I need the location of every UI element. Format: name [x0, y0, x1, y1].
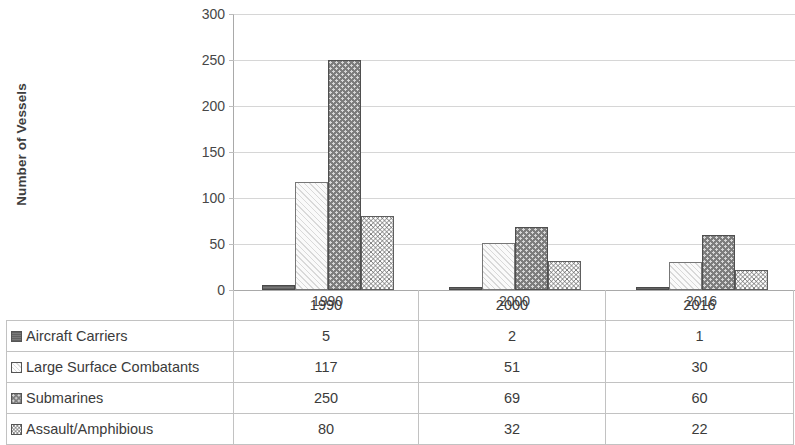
value-cell: 22: [606, 414, 794, 445]
table-row: Submarines2506960: [7, 383, 794, 414]
table-header-1990: 1990: [234, 290, 419, 321]
y-axis-tick-label: 200: [202, 98, 225, 114]
gridline: [234, 152, 795, 153]
table-header-2000: 2000: [419, 290, 606, 321]
y-axis-tick-label: 50: [209, 236, 225, 252]
value-cell: 5: [234, 321, 419, 352]
series-label-cell: Submarines: [7, 383, 234, 414]
series-label-text: Assault/Amphibious: [26, 421, 153, 437]
table-header-2016: 2016: [606, 290, 794, 321]
value-cell: 250: [234, 383, 419, 414]
series-label-text: Large Surface Combatants: [26, 359, 199, 375]
bar-large-surface-combatants-2016: [669, 262, 702, 290]
bar-large-surface-combatants-2000: [482, 243, 515, 290]
bar-large-surface-combatants-1990: [295, 182, 328, 290]
series-label-cell: Large Surface Combatants: [7, 352, 234, 383]
wave-swatch-icon: [11, 424, 22, 435]
y-axis-tick: [229, 14, 234, 15]
series-label-text: Aircraft Carriers: [26, 328, 128, 344]
gridline: [234, 60, 795, 61]
y-axis-tick-label: 300: [202, 6, 225, 22]
y-axis-tick: [229, 152, 234, 153]
gridline: [234, 14, 795, 15]
y-axis-title: Number of Vessels: [14, 55, 29, 235]
value-cell: 69: [419, 383, 606, 414]
table-row: Assault/Amphibious803222: [7, 414, 794, 445]
bar-submarines-2000: [515, 227, 548, 290]
bar-assault-amphibious-1990: [361, 216, 394, 290]
y-axis-tick: [229, 106, 234, 107]
hatch-swatch-icon: [11, 362, 22, 373]
y-axis-tick-label: 150: [202, 144, 225, 160]
y-axis-tick: [229, 244, 234, 245]
table-corner-cell: [7, 290, 234, 321]
y-axis-tick-label: 100: [202, 190, 225, 206]
bar-assault-amphibious-2000: [548, 261, 581, 290]
value-cell: 80: [234, 414, 419, 445]
table-header-row: 1990 2000 2016: [7, 290, 794, 321]
solid-swatch-icon: [11, 331, 22, 342]
value-cell: 30: [606, 352, 794, 383]
value-cell: 32: [419, 414, 606, 445]
series-label-cell: Aircraft Carriers: [7, 321, 234, 352]
dots-swatch-icon: [11, 393, 22, 404]
table-row: Large Surface Combatants1175130: [7, 352, 794, 383]
y-axis-tick-label: 250: [202, 52, 225, 68]
value-cell: 117: [234, 352, 419, 383]
data-table: 1990 2000 2016 Aircraft Carriers521Large…: [6, 290, 794, 445]
series-label-cell: Assault/Amphibious: [7, 414, 234, 445]
bar-submarines-2016: [702, 235, 735, 290]
series-label-text: Submarines: [26, 390, 103, 406]
table-row: Aircraft Carriers521: [7, 321, 794, 352]
bar-submarines-1990: [328, 60, 361, 290]
value-cell: 60: [606, 383, 794, 414]
table-body: Aircraft Carriers521Large Surface Combat…: [7, 321, 794, 445]
y-axis-tick: [229, 198, 234, 199]
bar-assault-amphibious-2016: [735, 270, 768, 290]
y-axis-tick: [229, 60, 234, 61]
gridline: [234, 106, 795, 107]
plot-area: 300250200150100500: [234, 14, 795, 290]
value-cell: 51: [419, 352, 606, 383]
value-cell: 1: [606, 321, 794, 352]
value-cell: 2: [419, 321, 606, 352]
